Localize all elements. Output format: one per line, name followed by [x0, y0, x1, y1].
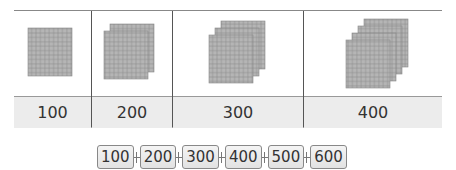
hundred-block-icon	[14, 11, 91, 96]
hundred-block-icon	[304, 11, 442, 96]
chain-link	[262, 157, 268, 158]
chain-box: 500	[268, 145, 305, 169]
hundred-block-icon	[173, 11, 303, 96]
chain-box: 200	[140, 145, 177, 169]
chain-link	[219, 157, 225, 158]
column-200: 200	[92, 11, 172, 127]
column-100: 100	[14, 11, 91, 127]
chain-box: 400	[225, 145, 262, 169]
chain-box: 100	[97, 145, 134, 169]
number-chain: 100 200 300 400 500 600	[97, 145, 347, 169]
value-label: 100	[14, 96, 91, 128]
value-label: 300	[173, 96, 303, 128]
column-300: 300	[173, 11, 303, 127]
chain-box: 600	[310, 145, 347, 169]
column-400: 400	[304, 11, 442, 127]
value-label: 200	[92, 96, 172, 128]
value-label: 400	[304, 96, 442, 128]
place-value-table: 100 200 300	[14, 10, 442, 128]
hundred-flats-1	[14, 11, 91, 96]
chain-link	[176, 157, 182, 158]
chain-link	[304, 157, 310, 158]
chain-link	[134, 157, 140, 158]
chain-box: 300	[182, 145, 219, 169]
hundred-block-icon	[92, 11, 172, 96]
